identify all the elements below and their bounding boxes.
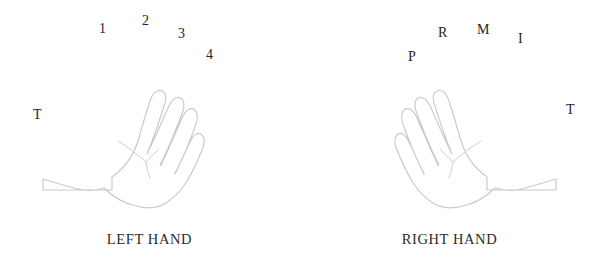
left-hand-drawing <box>0 0 299 258</box>
right-finger-label-m: M <box>477 23 489 37</box>
hand-diagram-figure: 1 2 3 4 T LEFT HAND P R M I T RIGHT HAND <box>0 0 599 258</box>
left-finger-label-1: 1 <box>99 22 106 36</box>
right-finger-label-r: R <box>438 26 447 40</box>
right-thumb-label: T <box>566 103 575 117</box>
right-hand-outline <box>395 90 556 207</box>
left-hand-panel: 1 2 3 4 T LEFT HAND <box>0 0 299 258</box>
left-finger-label-2: 2 <box>142 14 149 28</box>
right-hand-caption: RIGHT HAND <box>300 231 599 248</box>
left-finger-label-4: 4 <box>206 48 213 62</box>
left-thumb-label: T <box>33 108 42 122</box>
right-finger-label-i: I <box>518 32 523 46</box>
right-hand-panel: P R M I T RIGHT HAND <box>300 0 599 258</box>
left-hand-caption: LEFT HAND <box>0 231 299 248</box>
left-finger-label-3: 3 <box>178 27 185 41</box>
left-hand-outline <box>43 90 204 207</box>
right-finger-label-p: P <box>408 50 416 64</box>
right-hand-drawing <box>300 0 599 258</box>
